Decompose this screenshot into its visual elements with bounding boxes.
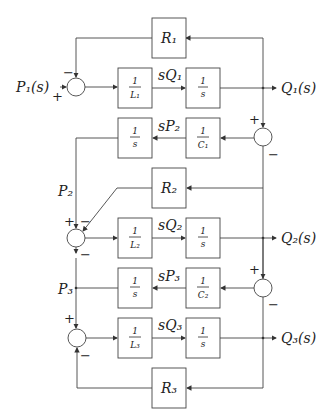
svg-text:1: 1 [200,226,206,236]
svg-text:−: − [80,348,91,363]
input-label: P₁(s) [15,79,49,95]
sum1-plus: + [52,89,63,104]
block-integrator-2 [186,218,220,258]
svg-text:1: 1 [132,126,138,136]
svg-text:R₂: R₂ [160,180,178,196]
svg-text:L₁: L₁ [129,90,140,100]
svg-text:s: s [133,289,138,299]
svg-text:1: 1 [132,276,138,286]
block-diagram: P₁(s) + − 1 L₁ sQ₁ 1 s Q₁(s) R₁ + − 1 [0,0,335,418]
svg-text:1: 1 [132,76,138,86]
svg-text:sP₂: sP₂ [158,118,181,134]
summing-junction-3 [68,329,86,347]
svg-text:−: − [80,247,91,262]
svg-text:C₂: C₂ [198,290,209,300]
sum1-minus: − [63,65,74,80]
svg-text:1: 1 [200,326,206,336]
svg-text:s: s [201,239,206,249]
output-Q3-label: Q₃(s) [281,330,316,346]
block-1-over-L3 [118,318,152,358]
svg-text:sP₃: sP₃ [158,268,181,284]
block-1-over-L1 [118,68,152,108]
svg-text:−: − [80,214,91,229]
block-integrator-3 [186,318,220,358]
svg-text:1: 1 [132,326,138,336]
svg-text:+: + [249,262,260,277]
svg-text:s: s [201,339,206,349]
svg-text:s: s [133,139,138,149]
block-integrator-1 [186,68,220,108]
svg-text:−: − [268,147,279,162]
svg-text:s: s [201,89,206,99]
svg-text:+: + [249,112,260,127]
svg-text:+: + [64,311,75,326]
svg-text:P₃: P₃ [57,281,73,297]
svg-text:+: + [64,214,75,229]
loop-1: P₁(s) + − 1 L₁ sQ₁ 1 s Q₁(s) R₁ [15,18,316,108]
svg-text:R₃: R₃ [160,380,178,396]
svg-text:1: 1 [132,226,138,236]
svg-text:sQ₂: sQ₂ [158,217,183,233]
block-integrator-P2 [118,118,152,158]
output-Q2-label: Q₂(s) [281,230,316,246]
sQ1-label: sQ₁ [158,67,182,83]
summing-junction-C1 [254,128,272,146]
svg-text:C₁: C₁ [198,140,209,150]
block-1-over-C1 [186,118,220,158]
svg-text:L₂: L₂ [129,240,140,250]
svg-text:L₃: L₃ [129,340,140,350]
svg-text:1: 1 [200,276,206,286]
block-1-over-C2 [186,268,220,308]
svg-text:1: 1 [200,76,206,86]
summing-junction-C2 [254,279,272,297]
loop-2: + − − 1 L₂ sQ₂ 1 s Q₂(s) [64,214,316,262]
loop-R2: R₂ [83,146,263,388]
block-integrator-P3 [118,268,152,308]
loop-3: + − 1 L₃ sQ₃ 1 s Q₃(s) R₃ [64,311,316,408]
svg-text:−: − [268,297,279,312]
output-Q1-label: Q₁(s) [281,80,316,96]
svg-text:R₁: R₁ [160,30,177,46]
svg-text:P₂: P₂ [57,183,73,199]
summing-junction-1 [67,78,85,96]
svg-text:1: 1 [200,126,206,136]
block-1-over-L2 [118,218,152,258]
summing-junction-2 [67,229,85,247]
svg-text:sQ₃: sQ₃ [158,317,183,333]
